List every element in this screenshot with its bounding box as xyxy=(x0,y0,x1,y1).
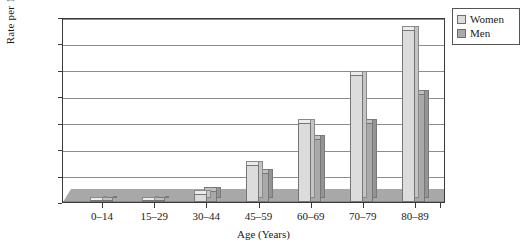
x-axis-tick-mark xyxy=(102,203,103,208)
bar-side-face xyxy=(363,71,367,198)
x-axis-tick-label: 30–44 xyxy=(176,211,236,222)
bar-front-face xyxy=(142,200,155,202)
bar-side-face xyxy=(217,187,221,198)
bar-side-face xyxy=(259,161,263,198)
x-axis-tick-mark xyxy=(206,203,207,208)
bar-front-face xyxy=(194,194,207,202)
legend-item-women[interactable]: Women xyxy=(457,12,515,26)
x-axis-title: Age (Years) xyxy=(0,228,527,240)
bar-chart: Rate per 100,000 05000100001500020000250… xyxy=(0,0,527,251)
bar-side-face xyxy=(311,119,315,198)
bar-front-face xyxy=(246,165,259,202)
x-axis-tick-mark xyxy=(440,203,441,208)
x-axis-tick-label: 0–14 xyxy=(72,211,132,222)
bar-front-face xyxy=(350,75,363,202)
bar-front-face xyxy=(298,123,311,202)
legend: WomenMen xyxy=(452,8,520,45)
y-axis-title-text: Rate per 100,000 xyxy=(4,0,16,60)
legend-item-men[interactable]: Men xyxy=(457,26,515,40)
plot-area xyxy=(62,18,445,203)
legend-item-label: Women xyxy=(470,14,504,25)
x-axis-tick-label: 45–59 xyxy=(229,211,289,222)
bars-layer xyxy=(63,19,444,202)
bar-women-0-14 xyxy=(90,201,103,203)
x-axis-tick-mark xyxy=(363,203,364,208)
women-swatch-icon xyxy=(457,15,466,24)
bar-side-face xyxy=(113,196,117,198)
x-axis-tick-label: 80–89 xyxy=(385,211,445,222)
bar-front-face xyxy=(402,30,415,202)
bar-side-face xyxy=(373,119,377,198)
legend-item-label: Men xyxy=(470,28,490,39)
x-axis-tick-mark xyxy=(154,203,155,208)
bar-women-60-69 xyxy=(298,123,311,202)
x-axis-tick-label: 60–69 xyxy=(281,211,341,222)
bar-side-face xyxy=(103,196,107,198)
bar-women-15-29 xyxy=(142,201,155,203)
bar-side-face xyxy=(415,26,419,198)
bar-side-face xyxy=(269,169,273,198)
bar-women-30-44 xyxy=(194,194,207,202)
men-swatch-icon xyxy=(457,29,466,38)
y-axis-title: Rate per 100,000 xyxy=(4,0,16,60)
x-axis-tick-label: 70–79 xyxy=(333,211,393,222)
bar-side-face xyxy=(155,196,159,198)
x-axis-tick-label: 15–29 xyxy=(124,211,184,222)
y-axis-tick-mark xyxy=(58,203,62,204)
x-axis-tick-mark xyxy=(259,203,260,208)
bar-side-face xyxy=(321,135,325,198)
x-axis-tick-mark xyxy=(311,203,312,208)
bar-front-face xyxy=(90,200,103,202)
bar-women-45-59 xyxy=(246,165,259,202)
x-axis-tick-mark xyxy=(415,203,416,208)
bar-side-face xyxy=(165,196,169,198)
bar-side-face xyxy=(207,190,211,198)
bar-women-70-79 xyxy=(350,75,363,202)
x-axis-title-text: Age (Years) xyxy=(237,228,290,240)
bar-women-80-89 xyxy=(402,30,415,202)
bar-side-face xyxy=(425,90,429,198)
